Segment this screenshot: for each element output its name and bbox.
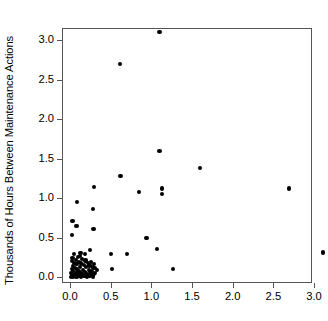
x-tick-mark xyxy=(111,283,112,288)
x-tick-mark xyxy=(192,283,193,288)
data-point xyxy=(74,275,78,279)
x-tick-label: 1.0 xyxy=(131,290,171,302)
data-point xyxy=(118,62,122,66)
y-tick-mark xyxy=(57,80,62,81)
data-point xyxy=(85,275,89,279)
data-point xyxy=(74,224,78,228)
data-point xyxy=(287,186,291,190)
data-point xyxy=(160,186,164,190)
data-point xyxy=(70,219,74,223)
data-point xyxy=(118,174,122,178)
data-point xyxy=(109,252,113,256)
data-point xyxy=(144,236,148,240)
x-tick-label: 0.0 xyxy=(50,290,90,302)
x-tick-mark xyxy=(70,283,71,288)
data-point xyxy=(91,227,95,231)
x-tick-label: 1.5 xyxy=(172,290,212,302)
y-tick-label: 3.0 xyxy=(16,33,54,45)
plot-area-wrapper: 0.00.51.01.52.02.53.0 0.00.51.01.52.02.5… xyxy=(0,0,328,321)
y-tick-label: 2.0 xyxy=(16,112,54,124)
y-tick-label: 0.0 xyxy=(16,270,54,282)
y-tick-label: 1.5 xyxy=(16,152,54,164)
data-point xyxy=(137,190,141,194)
data-point xyxy=(157,149,161,153)
x-tick-mark xyxy=(314,283,315,288)
y-tick-mark xyxy=(57,198,62,199)
y-tick-label: 2.5 xyxy=(16,73,54,85)
x-tick-label: 2.0 xyxy=(213,290,253,302)
y-tick-mark xyxy=(57,277,62,278)
y-tick-mark xyxy=(57,40,62,41)
x-tick-label: 3.0 xyxy=(294,290,328,302)
data-point xyxy=(157,30,161,34)
y-tick-mark xyxy=(57,238,62,239)
y-tick-mark xyxy=(57,119,62,120)
data-point xyxy=(321,250,325,254)
x-tick-mark xyxy=(151,283,152,288)
x-tick-mark xyxy=(233,283,234,288)
data-point xyxy=(91,274,95,278)
x-tick-label: 2.5 xyxy=(253,290,293,302)
x-tick-label: 0.5 xyxy=(91,290,131,302)
data-point xyxy=(91,207,95,211)
y-tick-mark xyxy=(57,159,62,160)
y-tick-label: 0.5 xyxy=(16,231,54,243)
plot-frame xyxy=(62,28,312,283)
y-tick-label: 1.0 xyxy=(16,191,54,203)
x-tick-mark xyxy=(273,283,274,288)
data-point xyxy=(83,252,87,256)
scatter-plot-figure: Thousands of Hours Between Maintenance A… xyxy=(0,0,328,321)
data-point xyxy=(70,233,74,237)
data-point xyxy=(95,268,99,272)
